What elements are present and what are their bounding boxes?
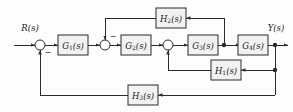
block-g1: G1(s): [58, 35, 88, 55]
svg-text:H1(s): H1(s): [214, 65, 237, 75]
block-g2: G2(s): [121, 35, 151, 55]
summing-junction-2-sign: −: [110, 32, 117, 41]
svg-text:H2(s): H2(s): [159, 13, 182, 23]
summing-junction-1-sign: −: [45, 48, 52, 57]
block-h3: H3(s): [128, 85, 158, 105]
block-h1: H1(s): [211, 60, 241, 80]
block-g4-arg: (s): [253, 40, 264, 50]
summing-junction-3: [163, 40, 173, 50]
block-h3-arg: (s): [143, 90, 154, 100]
output-label: Y(s): [268, 23, 285, 33]
summing-junction-2: [100, 40, 110, 50]
svg-text:G4(s): G4(s): [242, 40, 264, 50]
svg-text:G1(s): G1(s): [62, 40, 84, 50]
svg-text:G2(s): G2(s): [125, 40, 147, 50]
block-g3-arg: (s): [203, 40, 214, 50]
takeoff-node-c: [273, 68, 277, 72]
block-g3: G3(s): [188, 35, 218, 55]
block-h2-arg: (s): [171, 13, 182, 23]
block-h2: H2(s): [156, 8, 186, 28]
takeoff-node-a: [222, 43, 226, 47]
takeoff-node-b: [273, 43, 277, 47]
summing-junction-1: [35, 40, 45, 50]
input-label: R(s): [20, 23, 38, 33]
block-diagram-svg: G1(s) G2(s) G3(s) G4(s) H2(s): [0, 0, 293, 112]
block-g2-arg: (s): [136, 40, 147, 50]
block-diagram-canvas: G1(s) G2(s) G3(s) G4(s) H2(s): [0, 0, 293, 112]
block-h1-arg: (s): [226, 65, 237, 75]
svg-text:G3(s): G3(s): [192, 40, 214, 50]
block-g1-arg: (s): [73, 40, 84, 50]
block-g4: G4(s): [238, 35, 268, 55]
svg-text:H3(s): H3(s): [131, 90, 154, 100]
